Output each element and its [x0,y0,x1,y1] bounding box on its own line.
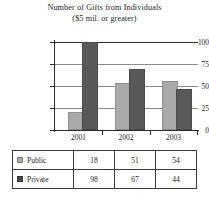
x-tick-label-2001: 2001 [55,134,102,142]
page-subtitle: ($5 mil. or greater) [0,13,209,24]
gridline-100 [55,42,198,43]
cell-public-2003: 54 [156,151,197,170]
y-tick-mark-0 [50,130,55,131]
bar-private-2001 [82,42,98,130]
bar-chart: 100 75 50 25 0 2001 2002 2003 [0,26,209,148]
legend-swatch-icon-public [17,157,23,163]
cell-public-2002: 51 [115,151,156,170]
cell-private-2001: 98 [74,170,115,189]
x-tick-label-2003: 2003 [150,134,197,142]
cell-private-2002: 67 [115,170,156,189]
gridline-75 [55,64,198,65]
legend-item-private: Private [13,170,74,189]
page-title: Number of Gifts from Individuals [0,2,209,13]
legend-item-public: Public [13,151,74,170]
cell-public-2001: 18 [74,151,115,170]
data-table: Public 18 51 54 Private 98 67 44 [12,150,197,189]
x-axis-line [54,130,199,131]
x-tick-mark-3 [197,131,198,135]
bar-private-2002 [129,69,145,130]
bar-private-2003 [176,89,192,130]
legend-swatch-icon-private [17,176,23,182]
legend-label-private: Private [27,175,49,184]
table-row: Private 98 67 44 [13,170,197,189]
x-tick-label-2002: 2002 [102,134,150,142]
table-row: Public 18 51 54 [13,151,197,170]
legend-label-public: Public [27,156,46,165]
plot-area [55,42,198,130]
chart-title-block: Number of Gifts from Individuals ($5 mil… [0,0,209,24]
cell-private-2003: 44 [156,170,197,189]
